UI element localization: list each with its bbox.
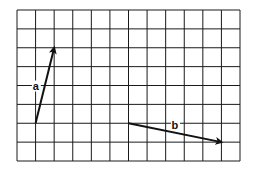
vectors: ab <box>32 48 222 142</box>
vector-a-label: a <box>33 80 40 92</box>
vector-diagram: ab <box>0 0 256 171</box>
vector-b-label: b <box>172 119 179 131</box>
